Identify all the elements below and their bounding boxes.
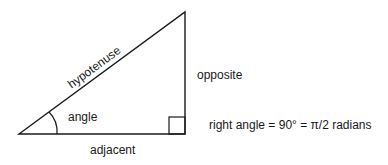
right-angle-marker	[169, 117, 185, 134]
triangle	[19, 12, 185, 134]
angle-arc	[49, 112, 57, 134]
adjacent-label: adjacent	[90, 143, 135, 157]
right-angle-note: right angle = 90° = π/2 radians	[209, 118, 372, 132]
triangle-figure	[0, 0, 388, 165]
opposite-label: opposite	[197, 68, 242, 82]
angle-label: angle	[68, 110, 97, 124]
